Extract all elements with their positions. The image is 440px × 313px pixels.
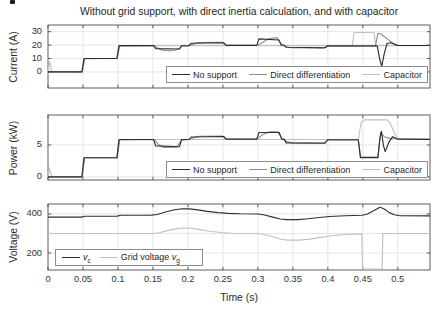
legend-entry: Grid voltage vg (100, 252, 180, 264)
legend-line-vc (62, 257, 80, 259)
x-tick-label: 0.2 (181, 274, 194, 285)
legend-label: Capacitor (383, 70, 422, 80)
legend-line-no-support (172, 74, 190, 76)
legend-entry: Capacitor (362, 70, 422, 80)
legend-entry: No support (172, 70, 237, 80)
figure-canvas: Without grid support, with direct inerti… (0, 0, 440, 313)
legend-label: Direct differentiation (270, 70, 350, 80)
legend-line-grid-voltage (100, 257, 118, 259)
legend-label: No support (193, 70, 237, 80)
x-tick-label: 0.4 (321, 274, 334, 285)
y-tick-label: 200 (12, 248, 42, 259)
legend-label: vc (83, 252, 91, 264)
legend-entry: No support (172, 165, 237, 175)
y-tick-label: 5 (12, 139, 42, 150)
legend-label: No support (193, 165, 237, 175)
legend-voltage: vc Grid voltage vg (55, 249, 203, 266)
y-tick-label: 30 (12, 26, 42, 37)
legend-line-direct-differentiation (249, 74, 267, 76)
legend-line-no-support (172, 169, 190, 171)
legend-entry: Capacitor (362, 165, 422, 175)
legend-entry: Direct differentiation (249, 70, 350, 80)
legend-label: Capacitor (383, 165, 422, 175)
x-tick-label: 0.45 (354, 274, 372, 285)
x-tick-label: 0.25 (214, 274, 232, 285)
y-tick-label: 10 (12, 53, 42, 64)
x-axis-label: Time (s) (48, 292, 430, 303)
x-tick-label: 0.35 (284, 274, 302, 285)
legend-entry: Direct differentiation (249, 165, 350, 175)
legend-line-capacitor (362, 169, 380, 171)
legend-line-direct-differentiation (249, 169, 267, 171)
legend-power: No support Direct differentiation Capaci… (166, 161, 428, 178)
chart-area (0, 0, 440, 313)
y-tick-label: 0 (12, 66, 42, 77)
legend-entry: vc (62, 252, 91, 264)
legend-label: Direct differentiation (270, 165, 350, 175)
x-tick-label: 0.5 (391, 274, 404, 285)
y-tick-label: 20 (12, 40, 42, 51)
legend-line-capacitor (362, 74, 380, 76)
x-tick-label: 0 (45, 274, 50, 285)
x-tick-label: 0.1 (111, 274, 124, 285)
y-tick-label: 400 (12, 208, 42, 219)
x-tick-label: 0.05 (74, 274, 92, 285)
x-tick-label: 0.3 (251, 274, 264, 285)
legend-label: Grid voltage vg (121, 252, 180, 264)
series-v_c (48, 207, 430, 219)
x-tick-label: 0.15 (144, 274, 162, 285)
legend-current: No support Direct differentiation Capaci… (166, 66, 428, 83)
y-tick-label: 0 (12, 171, 42, 182)
